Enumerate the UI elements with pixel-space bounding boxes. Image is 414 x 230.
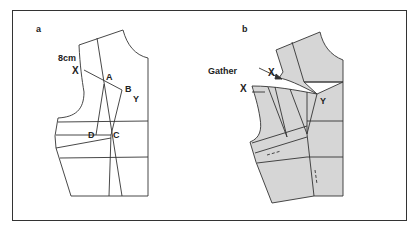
label-x-upper: X xyxy=(268,67,275,78)
label-y-b: Y xyxy=(320,96,326,106)
panel-b xyxy=(250,32,343,203)
label-8cm: 8cm xyxy=(58,53,76,63)
label-x-lower: X xyxy=(240,83,247,94)
label-x: X xyxy=(72,65,79,76)
panel-label-b: b xyxy=(242,24,248,34)
label-gather: Gather xyxy=(208,66,238,76)
pattern-diagram: a 8cm X A B Y D C xyxy=(0,0,414,230)
label-b: B xyxy=(125,84,132,94)
upper-bodice-piece-b xyxy=(276,32,343,94)
panel-label-a: a xyxy=(36,24,42,34)
label-d: D xyxy=(88,130,95,140)
lower-bodice-piece-b xyxy=(250,82,343,203)
label-y: Y xyxy=(133,94,139,104)
label-a: A xyxy=(106,72,113,82)
label-c: C xyxy=(113,130,120,140)
